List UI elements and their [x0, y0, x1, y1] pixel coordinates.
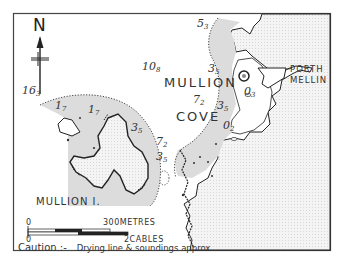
sounding: 03	[244, 86, 255, 99]
sounding: 72	[156, 136, 167, 149]
place-name-mullion: MULLION	[164, 76, 237, 89]
north-label: N	[33, 17, 46, 34]
sounding: 163	[22, 85, 40, 98]
chart-map	[0, 0, 343, 271]
place-name-porth: PORTH	[290, 64, 324, 75]
sounding: 35	[217, 100, 228, 113]
sounding: 35	[208, 63, 219, 76]
place-name-mullion-island: MULLION I.	[36, 197, 101, 207]
caution-note: Caution :-Drying line & soundings approx	[18, 243, 210, 253]
sounding: 17	[88, 104, 99, 117]
sounding: 17	[55, 100, 66, 113]
sounding: 02	[223, 120, 234, 133]
rock	[231, 138, 237, 141]
sounding: 108	[142, 61, 160, 74]
place-name-mellin: MELLIN	[290, 75, 327, 86]
sounding: 35	[156, 151, 167, 164]
scale-metres-label: 300METRES	[103, 219, 155, 227]
place-name-cove: COVE	[176, 110, 220, 123]
sounding: 72	[193, 94, 204, 107]
caution-label: Caution :-	[18, 242, 67, 253]
scale-metres-zero: 0	[26, 219, 32, 227]
sounding: 53	[197, 18, 208, 31]
sounding: 35	[131, 122, 142, 135]
rock-islet-core	[242, 74, 246, 78]
caution-text: Drying line & soundings approx	[77, 243, 211, 253]
